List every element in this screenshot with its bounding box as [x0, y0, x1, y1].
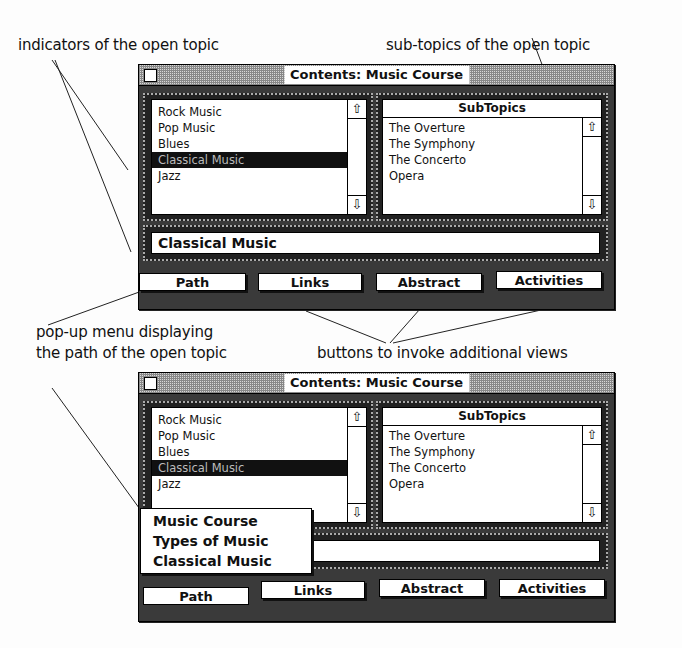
links-button[interactable]: Links: [258, 273, 362, 291]
subtopic-item[interactable]: The Symphony: [383, 136, 601, 152]
subtopics-list[interactable]: SubTopics The Overture The Symphony The …: [382, 407, 602, 523]
scroll-down-arrow-icon[interactable]: ⇩: [348, 503, 366, 522]
subtopics-header: SubTopics: [383, 100, 601, 118]
subtopic-item[interactable]: Opera: [383, 476, 601, 492]
path-frame: Classical Music: [143, 225, 608, 261]
annotation-subtopics: sub-topics of the open topic: [386, 36, 590, 54]
topics-frame: Rock Music Pop Music Blues Classical Mus…: [143, 93, 373, 221]
abstract-button[interactable]: Abstract: [376, 273, 482, 291]
scroll-down-arrow-icon[interactable]: ⇩: [583, 195, 601, 214]
annotation-popup-2: the path of the open topic: [36, 344, 227, 362]
path-button[interactable]: Path: [139, 273, 246, 291]
scroll-up-arrow-icon[interactable]: ⇧: [583, 118, 601, 137]
subtopic-item[interactable]: The Overture: [383, 120, 601, 136]
close-box-icon[interactable]: [144, 69, 157, 82]
popup-item-music-course[interactable]: Music Course: [141, 511, 311, 531]
window-title: Contents: Music Course: [284, 66, 469, 84]
topic-item[interactable]: Pop Music: [152, 428, 366, 444]
topic-item[interactable]: Jazz: [152, 476, 366, 492]
title-bar[interactable]: Contents: Music Course: [139, 373, 614, 394]
topic-item[interactable]: Rock Music: [152, 412, 366, 428]
topic-item[interactable]: Rock Music: [152, 104, 366, 120]
subtopics-header: SubTopics: [383, 408, 601, 426]
topic-item[interactable]: Blues: [152, 136, 366, 152]
scroll-up-arrow-icon[interactable]: ⇧: [348, 100, 366, 119]
subtopics-frame: SubTopics The Overture The Symphony The …: [376, 401, 608, 529]
annotation-popup-1: pop-up menu displaying: [36, 323, 213, 341]
subtopic-item[interactable]: Opera: [383, 168, 601, 184]
subtopics-scrollbar[interactable]: ⇧ ⇩: [582, 118, 601, 214]
topic-item-selected[interactable]: Classical Music: [152, 460, 348, 476]
open-topic-field: Classical Music: [151, 232, 600, 254]
topics-list[interactable]: Rock Music Pop Music Blues Classical Mus…: [151, 407, 367, 523]
subtopics-frame: SubTopics The Overture The Symphony The …: [376, 93, 608, 221]
topic-item[interactable]: Blues: [152, 444, 366, 460]
topic-item-selected[interactable]: Classical Music: [152, 152, 348, 168]
scroll-up-arrow-icon[interactable]: ⇧: [348, 408, 366, 427]
activities-button[interactable]: Activities: [499, 579, 605, 597]
scroll-up-arrow-icon[interactable]: ⇧: [583, 426, 601, 445]
path-button-pressed[interactable]: Path: [143, 587, 249, 605]
scroll-down-arrow-icon[interactable]: ⇩: [348, 195, 366, 214]
activities-button[interactable]: Activities: [496, 271, 602, 289]
subtopic-item[interactable]: The Concerto: [383, 152, 601, 168]
path-popup-menu: Music Course Types of Music Classical Mu…: [140, 508, 312, 574]
window-title: Contents: Music Course: [284, 374, 469, 392]
subtopic-item[interactable]: The Symphony: [383, 444, 601, 460]
topic-item[interactable]: Pop Music: [152, 120, 366, 136]
title-bar[interactable]: Contents: Music Course: [139, 65, 614, 86]
subtopics-list[interactable]: SubTopics The Overture The Symphony The …: [382, 99, 602, 215]
contents-window-1: Contents: Music Course Rock Music Pop Mu…: [138, 64, 615, 310]
contents-window-2: Contents: Music Course Rock Music Pop Mu…: [138, 372, 615, 622]
links-button[interactable]: Links: [261, 581, 365, 599]
annotation-buttons: buttons to invoke additional views: [317, 344, 568, 362]
topics-scrollbar[interactable]: ⇧ ⇩: [347, 408, 366, 522]
topic-item[interactable]: Jazz: [152, 168, 366, 184]
subtopic-item[interactable]: The Concerto: [383, 460, 601, 476]
scroll-down-arrow-icon[interactable]: ⇩: [583, 503, 601, 522]
topics-scrollbar[interactable]: ⇧ ⇩: [347, 100, 366, 214]
subtopic-item[interactable]: The Overture: [383, 428, 601, 444]
subtopics-scrollbar[interactable]: ⇧ ⇩: [582, 426, 601, 522]
popup-item-types-of-music[interactable]: Types of Music: [141, 531, 311, 551]
abstract-button[interactable]: Abstract: [379, 579, 485, 597]
annotation-indicators: indicators of the open topic: [18, 36, 219, 54]
topics-list[interactable]: Rock Music Pop Music Blues Classical Mus…: [151, 99, 367, 215]
close-box-icon[interactable]: [144, 377, 157, 390]
popup-item-classical-music[interactable]: Classical Music: [141, 551, 311, 571]
